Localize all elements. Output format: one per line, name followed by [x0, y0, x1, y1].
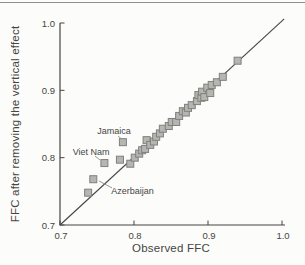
data-point-marker	[116, 156, 123, 163]
y-tick-label: 0.9	[42, 85, 55, 96]
x-tick-label: 1.0	[276, 230, 289, 241]
data-point-marker	[234, 57, 241, 64]
data-point-marker	[85, 189, 92, 196]
data-point-marker	[219, 73, 226, 80]
x-axis-title: Observed FFC	[60, 242, 282, 258]
y-tick-label: 0.8	[42, 152, 55, 163]
y-tick-label: 1.0	[42, 18, 55, 29]
y-tick-label: 0.7	[42, 220, 55, 231]
x-tick-label: 0.7	[54, 230, 67, 241]
scatter-plot: 0.70.80.91.00.70.80.91.0JamaicaViet NamA…	[0, 0, 305, 265]
annotation-label: Viet Nam	[73, 147, 110, 157]
data-point-marker	[207, 90, 214, 97]
figure-panel: 0.70.80.91.00.70.80.91.0JamaicaViet NamA…	[0, 0, 305, 265]
data-point-marker	[90, 176, 97, 183]
y-axis-title: FFC after removing the vertical effect	[9, 23, 25, 225]
x-tick-label: 0.8	[128, 230, 141, 241]
data-point-marker	[119, 139, 126, 146]
x-tick-label: 0.9	[202, 230, 215, 241]
annotation-label: Azerbaijan	[111, 186, 154, 196]
data-point-marker	[101, 160, 108, 167]
annotation-label: Jamaica	[97, 126, 131, 136]
